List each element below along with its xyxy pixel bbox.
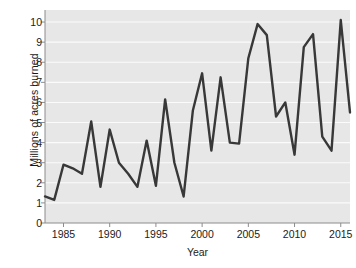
- x-tick-label-2015: 2015: [321, 228, 356, 240]
- x-tick-label-1985: 1985: [43, 228, 83, 240]
- x-tick-label-1990: 1990: [90, 228, 130, 240]
- y-axis-title: Millions of acres burned: [28, 10, 40, 210]
- x-tick-label-1995: 1995: [136, 228, 176, 240]
- line-chart-figure: 012345678910 198519901995200020052010201…: [0, 0, 356, 268]
- x-tick-label-2005: 2005: [228, 228, 268, 240]
- x-axis-title: Year: [45, 246, 350, 258]
- x-axis-tick-labels: 1985199019952000200520102015: [0, 0, 356, 268]
- x-tick-label-2000: 2000: [182, 228, 222, 240]
- x-tick-label-2010: 2010: [275, 228, 315, 240]
